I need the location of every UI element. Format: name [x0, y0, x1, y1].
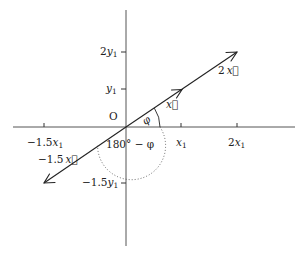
var: x⃗	[227, 64, 239, 76]
coef: −1.5	[27, 136, 53, 148]
coef: 2	[228, 136, 235, 148]
sub: 1	[112, 87, 117, 96]
var: x⃗	[66, 153, 78, 165]
x-tick-label-1: x1	[176, 136, 187, 150]
x-tick-label-2: 2x1	[228, 136, 245, 150]
phi-angle-label: φ	[140, 112, 153, 126]
sub: 1	[58, 141, 63, 150]
vector-x-label: x⃗	[166, 98, 178, 110]
sub: 1	[241, 141, 246, 150]
supplement-angle-arc	[98, 127, 166, 180]
supplement-angle-label: 180° − φ	[106, 138, 154, 150]
var: x⃗	[166, 98, 178, 110]
y-tick-label-1: y1	[105, 82, 117, 96]
coef: −1.5	[82, 176, 108, 188]
origin-label: O	[109, 110, 118, 122]
sub: 1	[113, 181, 118, 190]
phi-angle-arc	[154, 108, 160, 127]
x-tick-label-neg1.5: −1.5x1	[27, 136, 63, 150]
vector-scaling-diagram: O −1.5x1 x1 2x1 2y1 y1 −1.5y1 2x⃗ x⃗ −1.…	[0, 0, 307, 257]
coef: −1.5	[38, 153, 64, 165]
vector-2x-label: 2x⃗	[218, 64, 239, 76]
y-tick-label-neg1.5: −1.5y1	[82, 176, 118, 190]
sub: 1	[113, 50, 118, 59]
coef: 2	[100, 45, 107, 57]
coef: 2	[218, 64, 225, 76]
vector-neg1.5x-label: −1.5x⃗	[38, 153, 78, 165]
y-tick-label-2: 2y1	[100, 45, 117, 59]
sub: 1	[182, 141, 187, 150]
